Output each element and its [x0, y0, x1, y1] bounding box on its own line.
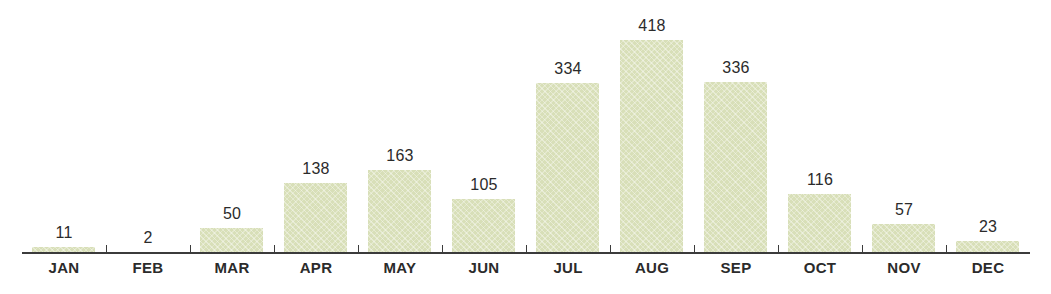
value-label-jun: 105 — [442, 177, 526, 193]
value-label-apr: 138 — [274, 161, 358, 177]
bar-chart: 112501381631053344183361165723 JANFEBMAR… — [0, 0, 1051, 294]
tick-label-sep: SEP — [694, 258, 778, 278]
bar-slot — [274, 0, 358, 253]
x-axis-tick-labels: JANFEBMARAPRMAYJUNJULAUGSEPOCTNOVDEC — [22, 258, 1030, 282]
tick-label-apr: APR — [274, 258, 358, 278]
axis-tick — [274, 245, 275, 253]
axis-tick — [946, 245, 947, 253]
axis-tick — [610, 245, 611, 253]
value-label-jan: 11 — [22, 225, 106, 241]
bar-slot — [442, 0, 526, 253]
bar-slot — [946, 0, 1030, 253]
tick-label-nov: NOV — [862, 258, 946, 278]
bar-slot — [22, 0, 106, 253]
axis-tick — [778, 245, 779, 253]
tick-label-jul: JUL — [526, 258, 610, 278]
bar-slot — [694, 0, 778, 253]
tick-label-oct: OCT — [778, 258, 862, 278]
plot-area: 112501381631053344183361165723 — [22, 0, 1030, 253]
bar-aug[interactable] — [620, 40, 683, 253]
bar-slot — [610, 0, 694, 253]
tick-label-mar: MAR — [190, 258, 274, 278]
axis-tick — [442, 245, 443, 253]
bar-slot — [778, 0, 862, 253]
axis-tick — [694, 245, 695, 253]
bar-oct[interactable] — [788, 194, 851, 253]
value-label-sep: 336 — [694, 60, 778, 76]
value-label-aug: 418 — [610, 18, 694, 34]
bar-nov[interactable] — [872, 224, 935, 253]
bar-jul[interactable] — [536, 83, 599, 253]
tick-label-aug: AUG — [610, 258, 694, 278]
tick-label-may: MAY — [358, 258, 442, 278]
value-label-may: 163 — [358, 148, 442, 164]
value-label-jul: 334 — [526, 61, 610, 77]
axis-tick — [106, 245, 107, 253]
bar-slot — [358, 0, 442, 253]
value-label-oct: 116 — [778, 172, 862, 188]
axis-tick — [526, 245, 527, 253]
value-label-feb: 2 — [106, 230, 190, 246]
tick-label-feb: FEB — [106, 258, 190, 278]
value-label-dec: 23 — [946, 219, 1030, 235]
axis-tick — [190, 245, 191, 253]
value-label-mar: 50 — [190, 206, 274, 222]
axis-tick — [358, 245, 359, 253]
tick-label-jun: JUN — [442, 258, 526, 278]
bar-may[interactable] — [368, 170, 431, 253]
bar-sep[interactable] — [704, 82, 767, 253]
bar-jun[interactable] — [452, 199, 515, 253]
value-label-nov: 57 — [862, 202, 946, 218]
bar-slot — [106, 0, 190, 253]
tick-label-jan: JAN — [22, 258, 106, 278]
bar-slot — [526, 0, 610, 253]
bar-apr[interactable] — [284, 183, 347, 253]
tick-label-dec: DEC — [946, 258, 1030, 278]
bar-mar[interactable] — [200, 228, 263, 253]
axis-tick — [862, 245, 863, 253]
